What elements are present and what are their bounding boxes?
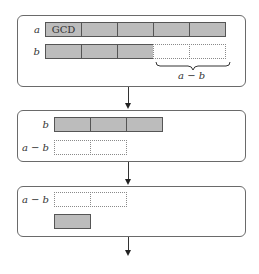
bar-b bbox=[54, 117, 163, 132]
gcd-segment: GCD bbox=[45, 22, 82, 37]
arrow-down-icon bbox=[125, 250, 131, 256]
bar-a-minus-b bbox=[54, 140, 127, 155]
segment bbox=[81, 22, 118, 37]
segment bbox=[45, 44, 82, 59]
connector-line bbox=[128, 162, 129, 180]
segment bbox=[153, 22, 190, 37]
segment bbox=[54, 214, 91, 229]
remainder-bar bbox=[54, 214, 91, 229]
bar-b bbox=[45, 44, 226, 59]
step3-box bbox=[17, 186, 246, 237]
segment bbox=[126, 117, 163, 132]
brace-label: a − b bbox=[178, 70, 205, 81]
segment bbox=[81, 44, 118, 59]
segment bbox=[90, 117, 127, 132]
row-label-b: b bbox=[20, 44, 40, 59]
segment bbox=[54, 117, 91, 132]
segment bbox=[117, 44, 154, 59]
row-label-a-minus-b: a − b bbox=[18, 192, 49, 207]
row-label-b: b bbox=[18, 117, 49, 132]
dashed-segment bbox=[90, 192, 127, 207]
bar-a-minus-b bbox=[54, 192, 127, 207]
dashed-segment bbox=[153, 44, 190, 59]
connector-line bbox=[128, 237, 129, 251]
row-label-a-minus-b: a − b bbox=[18, 140, 49, 155]
arrow-down-icon bbox=[125, 103, 131, 109]
bar-a: GCD bbox=[45, 22, 226, 37]
dashed-segment bbox=[189, 44, 226, 59]
dashed-segment bbox=[90, 140, 127, 155]
arrow-down-icon bbox=[125, 179, 131, 185]
dashed-segment bbox=[54, 192, 91, 207]
connector-line bbox=[128, 87, 129, 104]
segment bbox=[117, 22, 154, 37]
segment bbox=[189, 22, 226, 37]
dashed-segment bbox=[54, 140, 91, 155]
row-label-a: a bbox=[20, 22, 40, 37]
